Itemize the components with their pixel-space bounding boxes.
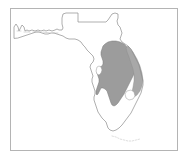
distribution-map-figure: [0, 0, 189, 159]
map-background: [0, 0, 189, 159]
florida-map-svg: [0, 0, 189, 159]
lake-okeechobee-shape: [125, 90, 135, 100]
